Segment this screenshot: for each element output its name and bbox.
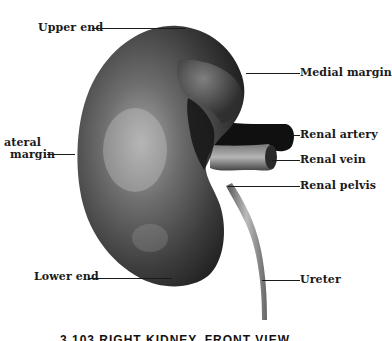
- leader-lateral-margin: [47, 154, 75, 155]
- caption-clip: 3.103 RIGHT KIDNEY, FRONT VIEW: [0, 333, 391, 341]
- label-lateral-margin-line2: margin: [10, 149, 55, 161]
- leader-lower-end: [88, 278, 172, 279]
- label-ureter: Ureter: [300, 274, 341, 286]
- ureter-shape: [226, 183, 267, 320]
- leader-renal-pelvis: [228, 186, 300, 187]
- label-renal-vein: Renal vein: [300, 154, 366, 166]
- leader-renal-vein: [272, 160, 300, 161]
- leader-upper-end: [92, 28, 185, 29]
- label-renal-artery: Renal artery: [300, 129, 378, 141]
- label-renal-pelvis: Renal pelvis: [300, 180, 376, 192]
- leader-medial-margin: [246, 73, 300, 74]
- label-lower-end: Lower end: [34, 271, 99, 283]
- label-medial-margin: Medial margin: [300, 67, 392, 79]
- figure-caption: 3.103 RIGHT KIDNEY, FRONT VIEW: [60, 333, 290, 341]
- leader-ureter: [262, 280, 300, 281]
- leader-renal-artery: [292, 135, 300, 136]
